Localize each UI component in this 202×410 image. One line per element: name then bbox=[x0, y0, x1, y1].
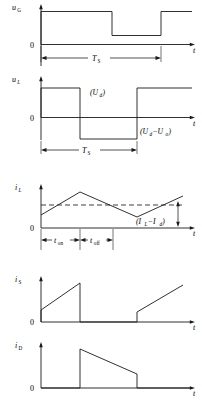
panel-ug: T S u G 0 t bbox=[12, 3, 196, 66]
panel-ul: (U d ) (U d −U o ) T S u L 0 t bbox=[12, 75, 196, 156]
il-y-axis-sub: L bbox=[18, 187, 22, 193]
il-x-axis-label: t bbox=[193, 229, 196, 238]
ul-x-axis-label: t bbox=[193, 119, 196, 128]
il-y-axis-label: i bbox=[15, 183, 17, 192]
panel-il: (I L −I d ) t on t off i L 0 t bbox=[15, 183, 196, 250]
il-ripple-annotation: (I L −I d ) bbox=[136, 217, 165, 227]
ul-low-level-annotation: (U d −U o ) bbox=[140, 127, 172, 137]
ug-period-sub: S bbox=[98, 58, 101, 64]
waveform-svg: T S u G 0 t (U d ) (U d −U o ) bbox=[0, 0, 202, 410]
il-toff-sub: off bbox=[94, 240, 100, 246]
il-ripple-arrow-down bbox=[176, 222, 180, 227]
is-y-axis-sub: S bbox=[19, 279, 22, 285]
ul-udo-close: ) bbox=[168, 127, 172, 136]
il-waveform bbox=[41, 192, 183, 217]
is-x-axis-label: t bbox=[193, 323, 196, 332]
ul-y-axis-label: u bbox=[12, 75, 16, 84]
id-y-arrowhead bbox=[39, 342, 43, 347]
is-waveform bbox=[41, 283, 183, 322]
ul-udo-open: (U bbox=[140, 127, 149, 136]
is-y-arrowhead bbox=[39, 276, 43, 281]
il-zero-label: 0 bbox=[30, 224, 34, 233]
id-y-axis-label: i bbox=[15, 341, 17, 350]
ul-udo-minus: −U bbox=[152, 127, 163, 136]
ul-period-label: T bbox=[82, 146, 87, 155]
ug-x-axis-label: t bbox=[193, 46, 196, 55]
waveform-figure: T S u G 0 t (U d ) (U d −U o ) bbox=[0, 0, 202, 410]
panel-id: i D 0 t bbox=[15, 341, 196, 398]
il-ripple-arrow-up bbox=[176, 201, 180, 206]
ug-y-arrowhead bbox=[39, 4, 43, 9]
ug-waveform bbox=[41, 12, 192, 45]
ul-ts-arrow-right bbox=[132, 148, 138, 152]
ul-y-arrowhead bbox=[39, 76, 43, 81]
ul-y-axis-sub: L bbox=[16, 79, 20, 85]
id-x-axis-label: t bbox=[193, 389, 196, 398]
ug-ts-arrow-left bbox=[41, 56, 47, 60]
il-ton-arrow-left bbox=[41, 238, 47, 242]
ug-y-axis-label: u bbox=[12, 3, 16, 12]
il-ripple-open: (I bbox=[136, 217, 142, 226]
id-y-axis-sub: D bbox=[19, 345, 23, 351]
ul-ud-close: ) bbox=[101, 88, 105, 97]
ug-zero-label: 0 bbox=[30, 41, 34, 50]
ul-zero-label: 0 bbox=[30, 114, 34, 123]
il-ripple-close: ) bbox=[161, 217, 165, 226]
il-ton-sub: on bbox=[58, 240, 64, 246]
is-zero-label: 0 bbox=[30, 318, 34, 327]
ul-period-sub: S bbox=[88, 150, 91, 156]
ug-period-label: T bbox=[92, 54, 97, 63]
ul-ud-open: (U bbox=[90, 88, 99, 97]
il-y-arrowhead bbox=[39, 184, 43, 189]
il-ripple-minus: −I bbox=[148, 217, 156, 226]
il-ton-arrow-right bbox=[75, 238, 81, 242]
id-zero-label: 0 bbox=[30, 384, 34, 393]
il-toff-arrow-right bbox=[108, 238, 114, 242]
ug-ts-arrow-right bbox=[156, 56, 162, 60]
ul-high-level-annotation: (U d ) bbox=[90, 88, 105, 98]
il-toff-arrow-left bbox=[80, 238, 86, 242]
ug-y-axis-sub: G bbox=[17, 7, 21, 13]
is-y-axis-label: i bbox=[15, 275, 17, 284]
panel-is: i S 0 t bbox=[15, 275, 196, 332]
ul-ts-arrow-left bbox=[41, 148, 47, 152]
id-waveform bbox=[41, 349, 192, 388]
